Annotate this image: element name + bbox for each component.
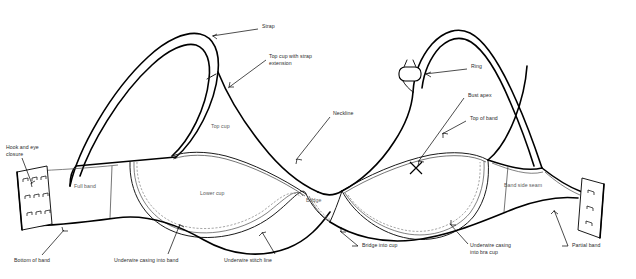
label-neckline: Neckline: [333, 110, 353, 117]
leader-bottom-of-band: [42, 230, 64, 255]
left-strap: [70, 33, 218, 186]
left-lower-cup: [130, 162, 306, 238]
diagram-drawing: [0, 0, 636, 279]
label-bottom-of-band: Bottom of band: [14, 257, 50, 264]
leader-top-of-band: [442, 121, 466, 134]
label-full-band: Full band: [74, 183, 96, 190]
ring: [399, 60, 421, 81]
label-ring: Ring: [471, 63, 482, 70]
bra-terminology-diagram: Strap Top cup with strap extension Top c…: [0, 0, 636, 279]
label-lower-cup: Lower cup: [200, 190, 224, 197]
label-top-cup-with-strap-extension: Top cup with strap extension: [269, 53, 312, 66]
right-top-cup: [342, 66, 527, 191]
label-bridge-into-cup: Bridge into cup: [362, 242, 398, 249]
left-top-cup: [172, 72, 318, 196]
label-partial-band: Partial band: [572, 242, 600, 249]
leader-underwire-stitch-line: [262, 232, 275, 254]
label-underwire-casing-into-band: Underwire casing into band: [114, 257, 178, 264]
label-band-side-seam: Band side seam: [504, 182, 542, 189]
partial-band-closure: [578, 178, 604, 238]
hook-and-eye-closure: [17, 166, 52, 230]
label-bridge: Bridge: [306, 197, 321, 204]
leader-top-cup-strap-ext: [228, 60, 266, 88]
leader-neckline: [296, 117, 330, 160]
label-underwire-stitch-line: Underwire stitch line: [224, 257, 272, 264]
label-top-cup: Top cup: [211, 123, 230, 130]
leader-partial-band: [554, 210, 568, 246]
leader-ring: [425, 69, 467, 74]
bust-apex-marker: [410, 162, 422, 174]
label-bust-apex: Bust apex: [468, 92, 492, 99]
label-top-of-band: Top of band: [470, 115, 498, 122]
leader-strap: [212, 29, 258, 36]
label-strap: Strap: [262, 23, 275, 30]
label-underwire-casing-into-bra-cup: Underwire casing into bra cup: [470, 242, 511, 255]
label-hook-and-eye-closure: Hook and eye closure: [6, 144, 39, 157]
bridge: [306, 191, 342, 222]
